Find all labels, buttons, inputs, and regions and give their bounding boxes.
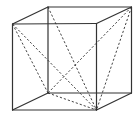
dashed-diagonal [48,7,132,93]
dashed-diagonal [13,24,49,93]
dashed-diagonal [13,24,97,110]
cube-edge [97,7,132,24]
dashed-diagonal [48,7,97,110]
cube-edge [13,93,49,110]
cube-dashed-diagonals [13,7,132,110]
dashed-diagonal [97,7,132,110]
cube-edge [13,7,49,24]
cube-diagram [0,0,139,116]
cube-edge [13,24,97,25]
